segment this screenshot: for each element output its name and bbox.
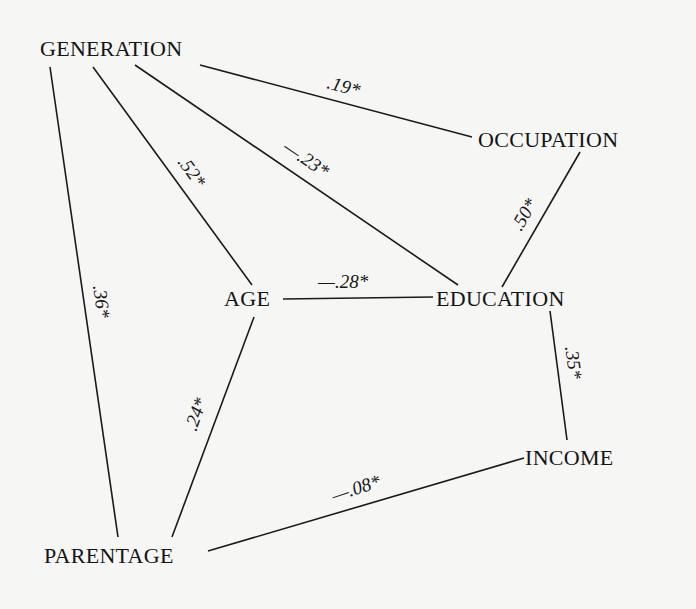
node-generation: GENERATION <box>40 36 182 61</box>
coefficient-generation-occupation: .19* <box>325 72 363 101</box>
edge-generation-age <box>93 67 252 285</box>
path-diagram: .19*.52*—.23*.36*.50*—.28*.24*.35*—.08* … <box>0 0 696 609</box>
coefficient-generation-parentage: .36* <box>89 284 114 320</box>
coefficient-age-education: —.28* <box>317 271 369 292</box>
coefficient-generation-education: —.23* <box>279 135 334 181</box>
edge-age-education <box>283 297 433 299</box>
coefficient-age-parentage: .24* <box>180 394 211 433</box>
edge-income-parentage <box>208 458 524 551</box>
edge-education-income <box>550 311 567 440</box>
node-income: INCOME <box>525 445 614 470</box>
coefficient-education-income: .35* <box>561 345 586 381</box>
node-age: AGE <box>224 286 270 311</box>
node-education: EDUCATION <box>436 286 565 311</box>
node-occupation: OCCUPATION <box>478 127 618 152</box>
node-parentage: PARENTAGE <box>44 543 174 568</box>
coefficient-income-parentage: —.08* <box>328 470 384 506</box>
